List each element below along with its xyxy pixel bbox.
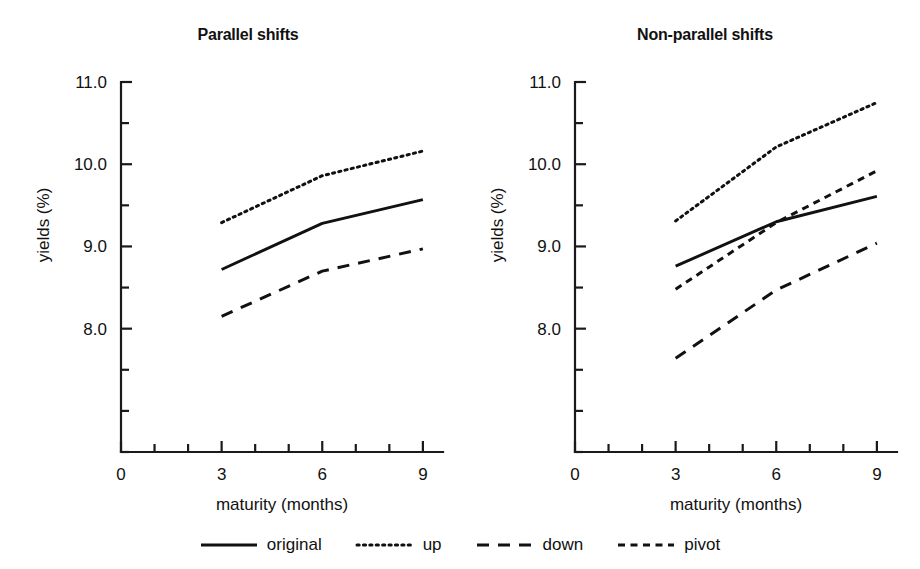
series-line-down (222, 249, 423, 316)
x-tick-label: 9 (418, 465, 427, 484)
x-tick-label: 3 (671, 465, 680, 484)
y-tick-label: 11.0 (529, 73, 561, 92)
x-tick-label: 9 (872, 465, 881, 484)
legend-item-up: up (356, 535, 442, 555)
x-axis-title: maturity (months) (670, 495, 802, 514)
legend-label: pivot (684, 535, 720, 555)
x-axis-title: maturity (months) (216, 495, 348, 514)
y-tick-label: 11.0 (75, 73, 107, 92)
legend-label: up (423, 535, 442, 555)
y-axis-title: yields (%) (488, 188, 507, 263)
y-tick-label: 9.0 (537, 237, 561, 256)
x-tick-label: 3 (217, 465, 226, 484)
axes: 8.09.010.011.00369maturity (months)yield… (34, 73, 443, 514)
y-axis-title: yields (%) (34, 188, 53, 263)
chart-panel-parallel-shifts: Parallel shifts 8.09.010.011.00369maturi… (0, 0, 460, 520)
x-tick-label: 6 (772, 465, 781, 484)
chart-panel-non-parallel-shifts: Non-parallel shifts 8.09.010.011.00369ma… (460, 0, 920, 520)
legend-item-down: down (476, 535, 584, 555)
series-line-down (676, 243, 877, 358)
y-tick-label: 10.0 (74, 155, 107, 174)
figure-root: Parallel shifts 8.09.010.011.00369maturi… (0, 0, 920, 569)
legend-line-dashed (476, 538, 534, 552)
data-series-group (222, 151, 423, 316)
y-tick-label: 8.0 (537, 320, 561, 339)
legend-line-shortdash (617, 538, 675, 552)
x-tick-label: 6 (318, 465, 327, 484)
legend-row: originalupdownpivot (0, 520, 920, 569)
series-line-up (222, 151, 423, 223)
plot-area-right: 8.09.010.011.00369maturity (months)yield… (460, 0, 920, 520)
y-tick-label: 10.0 (528, 155, 561, 174)
legend-line-dotted (356, 538, 414, 552)
legend-item-original: original (200, 535, 322, 555)
axes: 8.09.010.011.00369maturity (months)yield… (488, 73, 897, 514)
data-series-group (676, 103, 877, 359)
legend-label: original (267, 535, 322, 555)
plot-area-left: 8.09.010.011.00369maturity (months)yield… (0, 0, 460, 520)
y-tick-label: 9.0 (83, 237, 107, 256)
chart-legend: originalupdownpivot (0, 520, 920, 569)
legend-label: down (543, 535, 584, 555)
legend-line-solid (200, 538, 258, 552)
legend-item-pivot: pivot (617, 535, 720, 555)
x-tick-label: 0 (116, 465, 125, 484)
y-tick-label: 8.0 (83, 320, 107, 339)
series-line-pivot (676, 171, 877, 289)
x-tick-label: 0 (570, 465, 579, 484)
